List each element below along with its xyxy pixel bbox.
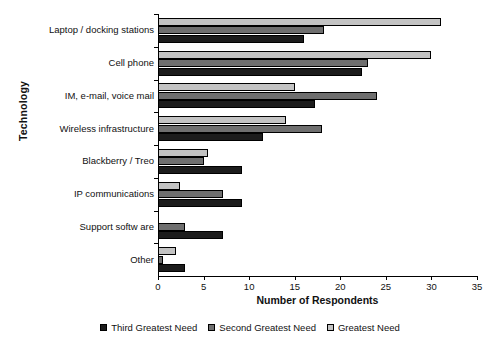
- category-label: Laptop / docking stations: [4, 25, 154, 35]
- x-tick-mark: [340, 276, 341, 280]
- bar-second: [158, 157, 204, 165]
- category-tick: [154, 14, 158, 15]
- category-tick: [154, 47, 158, 48]
- bar-greatest: [158, 83, 295, 91]
- bar-group: [158, 211, 477, 244]
- legend-label: Second Greatest Need: [219, 322, 316, 333]
- bar-third: [158, 100, 315, 108]
- x-tick-mark: [204, 276, 205, 280]
- x-tick-mark: [477, 276, 478, 280]
- category-tick: [154, 80, 158, 81]
- category-label: Blackberry / Treo: [4, 156, 154, 166]
- category-label: Wireless infrastructure: [4, 124, 154, 134]
- category-label: IM, e-mail, voice mail: [4, 91, 154, 101]
- legend-item: Second Greatest Need: [208, 322, 316, 333]
- x-tick-mark: [158, 276, 159, 280]
- category-tick: [154, 211, 158, 212]
- legend-swatch-icon: [327, 324, 334, 331]
- bar-second: [158, 190, 223, 198]
- category-tick: [154, 145, 158, 146]
- bar-second: [158, 59, 368, 67]
- bar-group: [158, 243, 477, 276]
- x-tick-label: 30: [421, 281, 441, 292]
- bar-greatest: [158, 116, 286, 124]
- bar-group: [158, 47, 477, 80]
- category-axis-labels: Laptop / docking stationsCell phoneIM, e…: [0, 14, 154, 276]
- legend-item: Third Greatest Need: [100, 322, 197, 333]
- bar-group: [158, 80, 477, 113]
- x-tick-label: 15: [285, 281, 305, 292]
- x-tick-label: 35: [467, 281, 487, 292]
- plot-area: [158, 14, 477, 276]
- x-tick-mark: [431, 276, 432, 280]
- category-label: Other: [4, 255, 154, 265]
- bar-greatest: [158, 51, 431, 59]
- category-tick: [154, 112, 158, 113]
- x-tick-mark: [295, 276, 296, 280]
- x-tick-label: 20: [330, 281, 350, 292]
- x-tick-label: 0: [148, 281, 168, 292]
- x-tick-label: 25: [376, 281, 396, 292]
- x-tick-mark: [386, 276, 387, 280]
- bar-third: [158, 68, 362, 76]
- bar-greatest: [158, 149, 208, 157]
- bar-second: [158, 26, 324, 34]
- bar-greatest: [158, 182, 180, 190]
- bar-group: [158, 112, 477, 145]
- category-label: Support softw are: [4, 222, 154, 232]
- bar-second: [158, 223, 185, 231]
- x-axis-ticks: 05101520253035: [158, 276, 477, 294]
- bar-second: [158, 92, 377, 100]
- category-label: Cell phone: [4, 58, 154, 68]
- bar-third: [158, 231, 223, 239]
- bar-greatest: [158, 247, 176, 255]
- bar-third: [158, 166, 242, 174]
- category-tick: [154, 178, 158, 179]
- bar-chart: Technology Laptop / docking stationsCell…: [0, 0, 500, 352]
- legend-item: Greatest Need: [327, 322, 400, 333]
- x-tick-label: 5: [194, 281, 214, 292]
- legend-label: Third Greatest Need: [111, 322, 197, 333]
- bar-third: [158, 133, 263, 141]
- legend-swatch-icon: [100, 324, 107, 331]
- category-tick: [154, 243, 158, 244]
- bar-group: [158, 14, 477, 47]
- x-axis-title: Number of Respondents: [158, 294, 477, 306]
- category-label: IP communications: [4, 189, 154, 199]
- bar-second: [158, 125, 322, 133]
- bar-group: [158, 145, 477, 178]
- bar-group: [158, 178, 477, 211]
- bar-second: [158, 256, 163, 264]
- bar-third: [158, 199, 242, 207]
- bar-greatest: [158, 18, 441, 26]
- bar-third: [158, 35, 304, 43]
- x-tick-label: 10: [239, 281, 259, 292]
- legend-swatch-icon: [208, 324, 215, 331]
- x-tick-mark: [249, 276, 250, 280]
- bar-third: [158, 264, 185, 272]
- legend-label: Greatest Need: [338, 322, 400, 333]
- legend: Third Greatest NeedSecond Greatest NeedG…: [0, 322, 500, 333]
